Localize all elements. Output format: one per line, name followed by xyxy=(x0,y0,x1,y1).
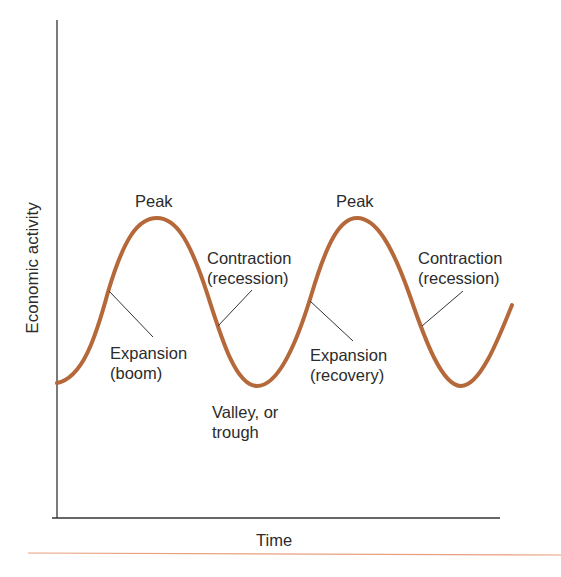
label-peak-2: Peak xyxy=(336,191,374,211)
label-contraction-2-line1: Contraction xyxy=(418,248,502,268)
label-valley-line2: trough xyxy=(212,422,278,442)
label-peak-1: Peak xyxy=(135,191,173,211)
y-axis-label: Economic activity xyxy=(23,202,43,333)
leader-contraction-2 xyxy=(422,291,463,326)
label-expansion-boom-line2: (boom) xyxy=(110,363,187,383)
leader-expansion-boom xyxy=(109,291,153,337)
business-cycle-diagram xyxy=(0,0,561,577)
label-valley-line1: Valley, or xyxy=(212,402,278,422)
label-contraction-1-line1: Contraction xyxy=(207,248,291,268)
label-expansion-recovery: Expansion (recovery) xyxy=(310,345,387,385)
leader-contraction-1 xyxy=(218,290,252,326)
label-contraction-2: Contraction (recession) xyxy=(418,248,502,288)
bottom-rule xyxy=(28,553,561,555)
label-contraction-1: Contraction (recession) xyxy=(207,248,291,288)
label-contraction-1-line2: (recession) xyxy=(207,268,291,288)
label-expansion-recovery-line2: (recovery) xyxy=(310,365,387,385)
leader-expansion-recovery xyxy=(310,301,353,341)
label-expansion-boom: Expansion (boom) xyxy=(110,343,187,383)
label-expansion-boom-line1: Expansion xyxy=(110,343,187,363)
label-expansion-recovery-line1: Expansion xyxy=(310,345,387,365)
x-axis-label: Time xyxy=(256,530,292,550)
label-contraction-2-line2: (recession) xyxy=(418,268,502,288)
label-valley-trough: Valley, or trough xyxy=(212,402,278,442)
